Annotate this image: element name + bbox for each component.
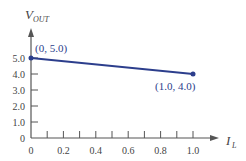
x-axis-arrow-icon: [210, 135, 219, 141]
chart-canvas: 0 1.0 2.0 3.0 4.0 5.0 0 0.2 0.4 0.6 0.8 …: [0, 0, 246, 161]
annotation-end: (1.0, 4.0): [155, 80, 196, 93]
x-tick-3: 0.6: [122, 145, 135, 156]
data-point-end: [191, 72, 196, 77]
data-line: [31, 58, 193, 74]
y-tick-2: 2.0: [13, 101, 26, 112]
y-axis-title-sub: OUT: [33, 15, 50, 24]
x-tick-1: 0.2: [57, 145, 70, 156]
annotation-start: (0, 5.0): [35, 42, 67, 55]
x-tick-4: 0.8: [154, 145, 167, 156]
y-tick-labels: 0 1.0 2.0 3.0 4.0 5.0: [13, 53, 26, 144]
y-ticks: [31, 58, 38, 122]
y-tick-0: 0: [20, 133, 25, 144]
x-ticks: [47, 131, 193, 138]
x-tick-0: 0: [29, 145, 34, 156]
x-axis-title-main: I: [225, 133, 231, 148]
series-line: [29, 56, 196, 77]
data-point-start: [29, 56, 34, 61]
x-axis-title-sub: L: [231, 141, 237, 150]
y-axis-arrow-icon: [28, 28, 34, 37]
y-tick-4: 4.0: [13, 69, 26, 80]
x-tick-labels: 0 0.2 0.4 0.6 0.8 1.0: [29, 145, 200, 156]
x-axis-title: I L: [225, 133, 237, 150]
x-tick-2: 0.4: [90, 145, 103, 156]
x-tick-5: 1.0: [187, 145, 200, 156]
y-axis-title: V OUT: [25, 7, 50, 24]
y-tick-3: 3.0: [13, 85, 26, 96]
y-tick-5: 5.0: [13, 53, 26, 64]
y-tick-1: 1.0: [13, 117, 26, 128]
